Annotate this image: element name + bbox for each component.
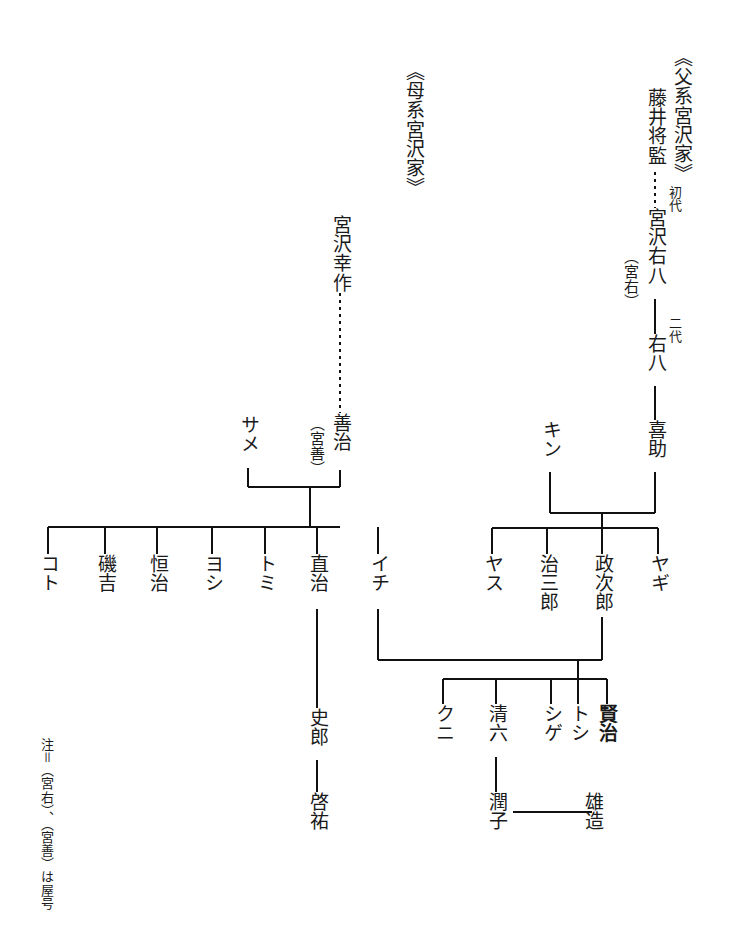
genealogy-chart: 《父系宮沢家》 藤井将監 初代 宮沢右八 （宮右） 二代 右八 喜助 キン ヤス…	[0, 0, 753, 940]
person-yoshi: ヨシ	[203, 554, 222, 592]
person-miyazawa-kosaku: 宮沢幸作	[331, 215, 350, 292]
person-miyazawa-uhachi: 宮沢右八	[646, 208, 665, 285]
person-keisuke: 啓祐	[308, 792, 327, 830]
person-kin: キン	[541, 420, 560, 458]
chart-note: 注＝（宮右）、（宮善）は屋号	[40, 738, 54, 910]
person-fujii-shogen: 藤井将監	[646, 88, 665, 165]
person-isokichi: 磯吉	[96, 554, 115, 592]
person-toshi: トシ	[569, 704, 588, 742]
person-shiro: 史郎	[308, 708, 327, 746]
generation-label-second: 二代	[668, 317, 681, 343]
person-masajiro: 政次郎	[593, 554, 612, 612]
person-shige: シゲ	[542, 704, 561, 742]
person-tomi: トミ	[256, 554, 275, 592]
person-junko: 潤子	[487, 792, 506, 830]
person-tsuneji: 恒治	[148, 554, 167, 592]
person-kuni: クニ	[434, 704, 453, 742]
person-ichi: イチ	[369, 554, 388, 592]
person-kisuke: 喜助	[646, 420, 665, 458]
connector-lines	[0, 0, 753, 940]
person-zenji: 善治	[331, 413, 350, 451]
heading-maternal-family: 《母系宮沢家》	[404, 62, 423, 196]
person-yasu: ヤス	[483, 554, 502, 592]
heading-paternal-family: 《父系宮沢家》	[672, 48, 691, 182]
person-jisaburo: 治三郎	[538, 554, 557, 612]
yago-miyau: （宮右）	[622, 249, 637, 310]
person-same: サメ	[239, 415, 258, 453]
person-seiroku: 清六	[487, 704, 506, 742]
person-kenji: 賢治	[597, 704, 616, 742]
person-uhachi-second: 右八	[646, 334, 665, 372]
person-naoji: 直治	[308, 554, 327, 592]
person-koto: コト	[39, 554, 58, 592]
yago-miyazen: （宮善）	[308, 416, 323, 477]
generation-label-first: 初代	[668, 186, 681, 212]
person-yagi: ヤギ	[649, 554, 668, 592]
person-yuzo: 雄造	[583, 792, 602, 830]
